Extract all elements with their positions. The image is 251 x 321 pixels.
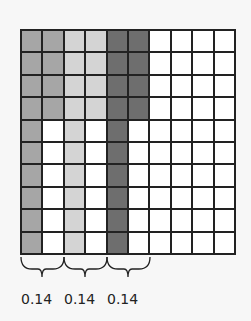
grid-cell — [192, 52, 213, 74]
grid-cell — [42, 187, 63, 209]
grid-cell — [192, 75, 213, 97]
grid-cell — [85, 164, 106, 186]
grid-cell — [42, 232, 63, 254]
grid-cell — [107, 164, 128, 186]
grid-cell — [64, 75, 85, 97]
grid-cell — [214, 232, 235, 254]
grid-cell — [64, 142, 85, 164]
grid-cell — [149, 52, 170, 74]
grid-cell — [85, 52, 106, 74]
grid-cell — [107, 52, 128, 74]
grid-cell — [42, 30, 63, 52]
grid-cell — [107, 75, 128, 97]
grid-cell — [128, 164, 149, 186]
grid-cell — [192, 30, 213, 52]
grid-cell — [64, 164, 85, 186]
grid-cell — [64, 120, 85, 142]
grid-cell — [42, 209, 63, 231]
grid-cell — [128, 187, 149, 209]
grid-cell — [85, 232, 106, 254]
grid-cell — [64, 209, 85, 231]
grid-cell — [171, 164, 192, 186]
grid-cell — [128, 120, 149, 142]
grid-cell — [107, 97, 128, 119]
grid-cell — [128, 52, 149, 74]
grid-cell — [214, 52, 235, 74]
grid-cell — [192, 97, 213, 119]
grid-cell — [128, 97, 149, 119]
grid-cell — [107, 142, 128, 164]
grid-cell — [214, 164, 235, 186]
grid-cell — [85, 120, 106, 142]
grid-cell — [42, 97, 63, 119]
grid-cell — [64, 52, 85, 74]
grid-cell — [21, 142, 42, 164]
grid-cell — [214, 142, 235, 164]
grid-cell — [42, 164, 63, 186]
grid-cell — [214, 97, 235, 119]
grid-cell — [21, 120, 42, 142]
grid-cell — [21, 209, 42, 231]
grid-cell — [21, 30, 42, 52]
grid-cell — [149, 97, 170, 119]
grid-cell — [42, 120, 63, 142]
grid-cell — [192, 187, 213, 209]
grid-cell — [128, 75, 149, 97]
grid-cell — [149, 164, 170, 186]
grid-cell — [85, 142, 106, 164]
brace-1 — [21, 257, 64, 277]
grid-cell — [107, 232, 128, 254]
grid-cell — [171, 52, 192, 74]
grid-cell — [64, 187, 85, 209]
value-label: 0.14 — [21, 291, 52, 307]
grid-cell — [171, 232, 192, 254]
grid-cell — [107, 30, 128, 52]
grid-cell — [128, 209, 149, 231]
grid-cell — [149, 120, 170, 142]
grid-cell — [214, 30, 235, 52]
grid-cell — [171, 75, 192, 97]
grid-cell — [214, 75, 235, 97]
grid-cell — [85, 75, 106, 97]
grid-cell — [192, 120, 213, 142]
value-label: 0.14 — [107, 291, 138, 307]
grid-cell — [192, 209, 213, 231]
grid-cell — [107, 120, 128, 142]
grid-cell — [192, 164, 213, 186]
value-label: 0.14 — [64, 291, 95, 307]
grid-cell — [42, 75, 63, 97]
grid-cell — [149, 75, 170, 97]
grid-cell — [21, 232, 42, 254]
grid-cell — [107, 187, 128, 209]
brace-3 — [107, 257, 150, 277]
grid-cell — [171, 209, 192, 231]
grid-cell — [171, 187, 192, 209]
grid-cell — [107, 209, 128, 231]
grid-cell — [149, 187, 170, 209]
grid-cell — [192, 142, 213, 164]
brace-2 — [64, 257, 107, 277]
grid-cell — [171, 97, 192, 119]
grid-cell — [21, 187, 42, 209]
grid-cell — [21, 75, 42, 97]
grid-cell — [21, 52, 42, 74]
grid-cell — [192, 232, 213, 254]
brace-group — [0, 255, 251, 291]
grid-cell — [128, 30, 149, 52]
grid-cell — [171, 142, 192, 164]
grid-cell — [64, 97, 85, 119]
grid-cell — [85, 187, 106, 209]
grid-cell — [214, 120, 235, 142]
grid-cell — [214, 187, 235, 209]
grid-cell — [85, 97, 106, 119]
grid-cell — [42, 52, 63, 74]
grid-cell — [149, 30, 170, 52]
grid-cell — [42, 142, 63, 164]
grid-cell — [149, 142, 170, 164]
grid-cell — [128, 232, 149, 254]
grid-cell — [64, 30, 85, 52]
grid-cell — [21, 164, 42, 186]
grid-cell — [149, 209, 170, 231]
grid-cell — [85, 209, 106, 231]
grid-cell — [171, 120, 192, 142]
